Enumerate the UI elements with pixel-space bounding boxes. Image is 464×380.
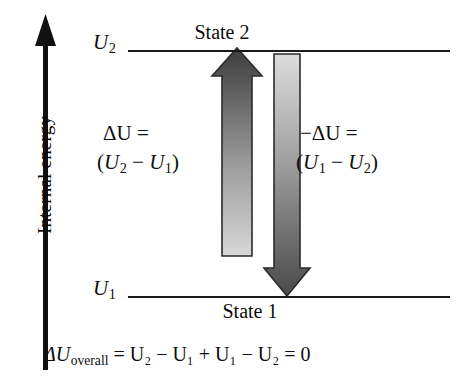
reverse-term-a-base: U — [303, 150, 318, 174]
forward-term-b-sub: 1 — [164, 160, 172, 176]
forward-transition-label-line2: (U2 − U1) — [97, 150, 179, 177]
axis-label-internal-energy: Internal energy — [34, 45, 56, 305]
reverse-term-a-sub: 1 — [318, 160, 326, 176]
state-label-state1: State 1 — [223, 300, 278, 323]
forward-transition-label-line1: ΔU = — [103, 121, 149, 146]
reverse-minus: − — [326, 150, 348, 174]
forward-paren-open: ( — [97, 150, 104, 174]
forward-transition-arrow — [212, 48, 262, 256]
reverse-transition-label-line2: (U1 − U2) — [296, 150, 378, 177]
forward-term-b-base: U — [149, 150, 164, 174]
reverse-paren-close: ) — [371, 150, 378, 174]
level-symbol-u1-subscript: 1 — [108, 286, 116, 302]
forward-term-a-sub: 2 — [119, 160, 127, 176]
state-label-state2: State 2 — [195, 21, 250, 44]
energy-level-line-state2 — [128, 50, 450, 52]
overall-equation: ΔUoverall = U₂ − U₁ + U₁ − U₂ = 0 — [44, 343, 311, 369]
reverse-transition-label-line1: −ΔU = — [300, 121, 358, 146]
level-symbol-u2-subscript: 2 — [108, 40, 116, 56]
diagram-graphics — [0, 0, 464, 380]
forward-paren-close: ) — [172, 150, 179, 174]
reverse-term-b-sub: 2 — [363, 160, 371, 176]
energy-state-diagram: Internal energy U2 U1 State 2 State 1 ΔU… — [0, 0, 464, 380]
level-symbol-u1-base: U — [93, 276, 108, 300]
overall-delta-base: ΔU — [44, 343, 70, 365]
level-symbol-u1: U1 — [93, 276, 116, 303]
reverse-paren-open: ( — [296, 150, 303, 174]
forward-term-a-base: U — [104, 150, 119, 174]
overall-equation-rest: = U₂ − U₁ + U₁ − U₂ = 0 — [108, 343, 310, 365]
forward-minus: − — [127, 150, 149, 174]
level-symbol-u2: U2 — [93, 30, 116, 57]
axis-label-wrap: Internal energy — [34, 14, 58, 370]
overall-delta-subscript: overall — [70, 353, 108, 368]
level-symbol-u2-base: U — [93, 30, 108, 54]
energy-level-line-state1 — [128, 296, 450, 298]
reverse-term-b-base: U — [348, 150, 363, 174]
